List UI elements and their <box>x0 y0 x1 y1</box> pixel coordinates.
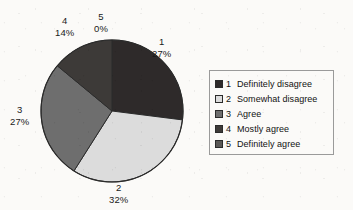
slice-label-3: 3 27% <box>10 104 29 127</box>
legend-label-1: Definitely disagree <box>237 79 312 89</box>
legend-swatch-4 <box>215 125 223 133</box>
slice-label-1-value: 27% <box>152 48 171 60</box>
slice-label-1: 1 27% <box>152 36 171 59</box>
pie-slice-1 <box>112 40 183 120</box>
slice-label-4: 4 14% <box>55 15 74 38</box>
legend-label-4: Mostly agree <box>237 124 289 134</box>
legend-label-5: Definitely agree <box>237 139 300 149</box>
slice-label-2: 2 32% <box>109 182 128 205</box>
legend-swatch-2 <box>215 95 223 103</box>
legend-swatch-3 <box>215 110 223 118</box>
slice-label-5: 5 0% <box>94 11 108 34</box>
slice-label-2-value: 32% <box>109 194 128 206</box>
legend-swatch-1 <box>215 80 223 88</box>
legend-key-1: 1 <box>226 79 237 89</box>
legend-item-5[interactable]: 5Definitely agree <box>215 136 333 151</box>
slice-label-3-name: 3 <box>10 104 29 116</box>
slice-label-3-value: 27% <box>10 116 29 128</box>
slice-label-5-value: 0% <box>94 23 108 35</box>
legend-item-3[interactable]: 3Agree <box>215 106 333 121</box>
legend-key-4: 4 <box>226 124 237 134</box>
legend-key-3: 3 <box>226 109 237 119</box>
legend-item-1[interactable]: 1Definitely disagree <box>215 76 333 91</box>
legend-item-2[interactable]: 2Somewhat disagree <box>215 91 333 106</box>
legend-label-2: Somewhat disagree <box>237 94 317 104</box>
slice-label-1-name: 1 <box>152 36 171 48</box>
slice-label-4-name: 4 <box>55 15 74 27</box>
slice-label-4-value: 14% <box>55 27 74 39</box>
legend-key-5: 5 <box>226 139 237 149</box>
slice-label-5-name: 5 <box>94 11 108 23</box>
legend-swatch-5 <box>215 140 223 148</box>
legend-item-4[interactable]: 4Mostly agree <box>215 121 333 136</box>
slice-label-2-name: 2 <box>109 182 128 194</box>
pie-chart-figure: 5 0% 4 14% 1 27% 3 27% 2 32% 1Definitely… <box>0 0 353 210</box>
chart-legend: 1Definitely disagree2Somewhat disagree3A… <box>209 70 334 155</box>
legend-label-3: Agree <box>237 109 261 119</box>
legend-key-2: 2 <box>226 94 237 104</box>
